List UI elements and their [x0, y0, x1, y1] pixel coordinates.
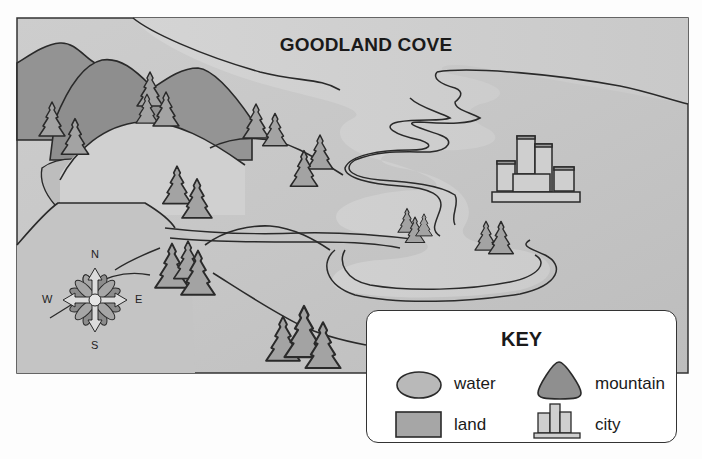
water-swatch-icon [394, 369, 444, 401]
compass-north-label: N [91, 249, 99, 260]
mountain-swatch-icon [535, 359, 585, 401]
key-label-water: water [454, 374, 496, 394]
land-swatch-icon [394, 410, 444, 440]
compass-east-label: E [135, 294, 142, 305]
key-label-mountain: mountain [595, 374, 665, 394]
compass-south-label: S [91, 340, 98, 351]
key-label-city: city [595, 415, 621, 435]
key-label-land: land [454, 415, 486, 435]
map-title: GOODLAND COVE [0, 34, 702, 56]
map-key: KEY water mountain land city [366, 310, 677, 443]
city-swatch-icon [532, 401, 584, 441]
compass-west-label: W [42, 294, 52, 305]
key-title: KEY [367, 328, 676, 351]
